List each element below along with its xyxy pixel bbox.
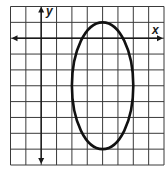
y-axis-down-arrow-icon [38,158,44,164]
y-axis-up-arrow-icon [38,7,44,13]
x-axis-label: x [151,23,160,37]
y-axis-label: y [45,4,54,18]
coordinate-plane: x y [0,0,168,179]
x-axis-left-arrow-icon [12,35,18,41]
